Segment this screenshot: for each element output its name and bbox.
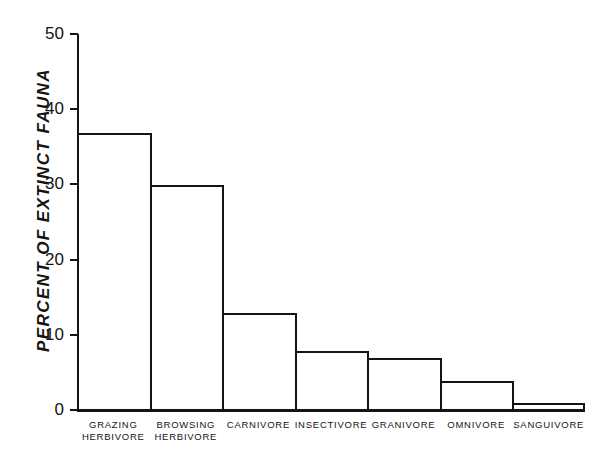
x-category-label-line: SANGUIVORE [512,419,585,431]
x-category-label: OMNIVORE [440,419,513,431]
x-category-label: GRAZINGHERBIVORE [77,419,150,442]
bar [222,313,297,411]
x-category-label-line: HERBIVORE [150,431,223,443]
y-tick-label: 10 [22,326,64,343]
bar [512,403,585,411]
x-category-label: CARNIVORE [222,419,295,431]
x-category-label: INSECTIVORE [295,419,368,431]
bar-series [77,34,585,411]
x-category-label-line: BROWSING [150,419,223,431]
x-category-label-line: INSECTIVORE [295,419,368,431]
x-category-label-line: CARNIVORE [222,419,295,431]
bar [295,351,370,411]
y-tick-label: 0 [22,401,64,418]
x-category-label: SANGUIVORE [512,419,585,431]
x-category-label: GRANIVORE [367,419,440,431]
y-tick-label: 30 [22,175,64,192]
y-tick-label: 20 [22,251,64,268]
bar [367,358,442,411]
x-category-label-line: HERBIVORE [77,431,150,443]
bar-chart-figure: PERCENT OF EXTINCT FAUNA 01020304050 GRA… [0,0,607,461]
bar [77,133,152,411]
y-tick-label: 40 [22,100,64,117]
bar [150,185,225,411]
x-category-label-line: GRAZING [77,419,150,431]
x-category-label-line: OMNIVORE [440,419,513,431]
bar [440,381,515,411]
y-tick-label: 50 [22,25,64,42]
x-category-label-line: GRANIVORE [367,419,440,431]
x-category-label: BROWSINGHERBIVORE [150,419,223,442]
